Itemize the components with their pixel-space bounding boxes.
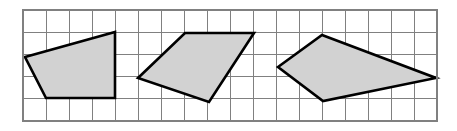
figure-root bbox=[0, 0, 457, 131]
geometry-figure bbox=[0, 0, 457, 131]
